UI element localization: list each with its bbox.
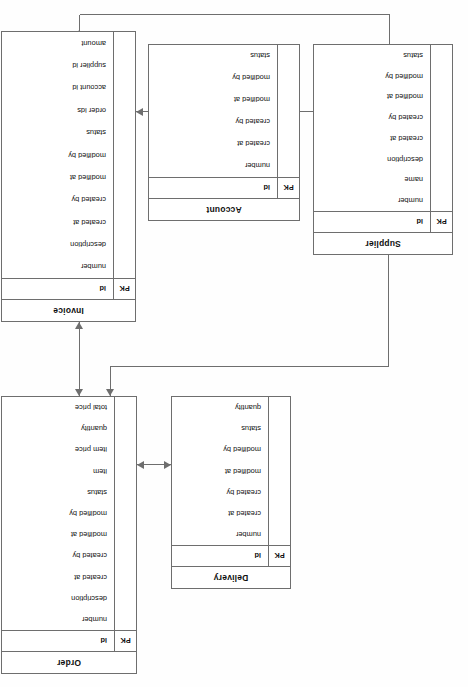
- entity-supplier[interactable]: Supplier PK id number name description c…: [313, 44, 453, 255]
- pk-attribute: id: [2, 631, 114, 651]
- attribute-row: created at: [314, 128, 452, 149]
- attribute-row: quantity: [172, 397, 290, 418]
- key-cell-empty: [277, 155, 299, 177]
- entity-delivery[interactable]: Delivery PK id number created at created…: [171, 396, 291, 589]
- pk-attribute: id: [2, 279, 113, 299]
- crowsfoot-account-invoice-end: [136, 108, 143, 116]
- attribute-label: modified by: [172, 439, 268, 460]
- attribute-label: created at: [2, 566, 114, 587]
- entity-supplier-rows: PK id number name description created at: [314, 45, 452, 232]
- key-cell-empty: [277, 45, 299, 67]
- key-cell-empty: [113, 99, 135, 121]
- attribute-label: number: [314, 190, 430, 211]
- attribute-label: status: [2, 121, 113, 143]
- attribute-row: order ids: [2, 99, 135, 121]
- entity-invoice[interactable]: Invoice PK id number description created…: [1, 31, 136, 322]
- key-cell-empty: [277, 89, 299, 111]
- key-cell-empty: [430, 149, 452, 170]
- key-cell-empty: [113, 233, 135, 255]
- entity-account[interactable]: Account PK id number created at created …: [148, 44, 300, 221]
- attribute-label: item: [2, 461, 114, 482]
- attribute-row: description: [314, 149, 452, 170]
- key-cell-empty: [277, 67, 299, 89]
- attribute-row: number: [2, 609, 136, 630]
- attribute-label: description: [314, 149, 430, 170]
- attribute-row: created at: [172, 503, 290, 524]
- attribute-label: modified by: [2, 503, 114, 524]
- attribute-label: status: [149, 45, 277, 67]
- attribute-row: created by: [2, 545, 136, 566]
- relationship-supplier-invoice-run: [80, 14, 390, 15]
- entity-order[interactable]: Order PK id number description created a…: [1, 396, 137, 674]
- key-cell-empty: [113, 211, 135, 233]
- attribute-row: created at: [2, 211, 135, 233]
- entity-account-rows: PK id number created at created by modif…: [149, 45, 299, 198]
- attribute-row: modified at: [149, 89, 299, 111]
- entity-invoice-pk-row: PK id: [2, 278, 135, 299]
- attribute-label: modified at: [2, 524, 114, 545]
- attribute-label: order ids: [2, 99, 113, 121]
- key-cell-empty: [114, 439, 136, 460]
- key-cell-empty: [277, 111, 299, 133]
- key-cell-empty: [430, 66, 452, 87]
- attribute-label: account id: [2, 77, 113, 99]
- attribute-label: description: [2, 233, 113, 255]
- attribute-label: status: [314, 45, 430, 66]
- attribute-row: modified by: [2, 503, 136, 524]
- key-cell-empty: [268, 503, 290, 524]
- attribute-row: name: [314, 170, 452, 191]
- attribute-label: modified at: [314, 87, 430, 108]
- attribute-label: created by: [172, 482, 268, 503]
- attribute-label: quantity: [2, 418, 114, 439]
- attribute-label: number: [149, 155, 277, 177]
- attribute-row: status: [2, 482, 136, 503]
- key-cell-empty: [277, 133, 299, 155]
- pk-label: PK: [430, 212, 452, 232]
- attribute-row: created by: [314, 107, 452, 128]
- attribute-row: modified by: [2, 144, 135, 166]
- attribute-label: item price: [2, 439, 114, 460]
- crowsfoot-delivery-end: [164, 461, 171, 469]
- key-cell-empty: [114, 588, 136, 609]
- pk-attribute: id: [149, 178, 277, 198]
- attribute-row: status: [2, 121, 135, 143]
- attribute-row: amount: [2, 32, 135, 54]
- attribute-label: quantity: [172, 397, 268, 418]
- key-cell-empty: [430, 128, 452, 149]
- key-cell-empty: [268, 524, 290, 545]
- key-cell-empty: [113, 121, 135, 143]
- key-cell-empty: [114, 566, 136, 587]
- key-cell-empty: [268, 460, 290, 481]
- entity-order-rows: PK id number description created at crea…: [2, 397, 136, 651]
- entity-invoice-title: Invoice: [2, 299, 135, 321]
- key-cell-empty: [114, 418, 136, 439]
- attribute-label: modified at: [2, 166, 113, 188]
- key-cell-empty: [430, 107, 452, 128]
- crowsfoot-order-end: [137, 461, 144, 469]
- relationship-supplier-invoice-rise: [79, 15, 80, 31]
- key-cell-empty: [268, 418, 290, 439]
- attribute-row: status: [314, 45, 452, 66]
- attribute-row: number: [149, 155, 299, 177]
- attribute-label: status: [172, 418, 268, 439]
- attribute-label: description: [2, 588, 114, 609]
- attribute-label: modified by: [314, 66, 430, 87]
- attribute-label: status: [2, 482, 114, 503]
- attribute-label: created at: [172, 503, 268, 524]
- entity-account-pk-row: PK id: [149, 177, 299, 198]
- relationship-order-supplier-run: [110, 366, 389, 367]
- key-cell-empty: [430, 45, 452, 66]
- key-cell-empty: [113, 189, 135, 211]
- key-cell-empty: [114, 461, 136, 482]
- attribute-row: created by: [2, 189, 135, 211]
- attribute-row: status: [172, 418, 290, 439]
- crowsfoot-order-invoice-bottom: [76, 322, 84, 329]
- attribute-label: created at: [149, 133, 277, 155]
- attribute-row: created at: [2, 566, 136, 587]
- entity-order-title: Order: [2, 651, 136, 673]
- attribute-label: total price: [2, 397, 114, 418]
- crowsfoot-order-supplier-top: [107, 389, 115, 396]
- key-cell-empty: [114, 545, 136, 566]
- attribute-row: supplier id: [2, 54, 135, 76]
- key-cell-empty: [114, 482, 136, 503]
